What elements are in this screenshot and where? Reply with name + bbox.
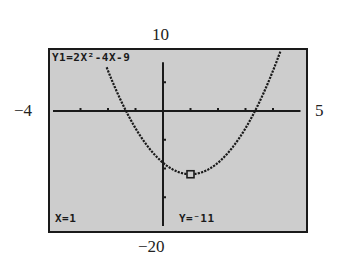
calculator-screen: Y1=2X²-4X-9 X=1 Y=⁻11 bbox=[48, 48, 308, 233]
parabola-curve bbox=[107, 51, 281, 174]
graph-canvas bbox=[48, 48, 308, 233]
equation-text: Y1=2X²-4X-9 bbox=[52, 52, 130, 63]
xmin-label: −4 bbox=[14, 102, 32, 119]
trace-y-readout: Y=⁻11 bbox=[179, 213, 215, 224]
ymax-label: 10 bbox=[152, 26, 169, 43]
trace-cursor-icon bbox=[187, 171, 194, 178]
ymin-label: −20 bbox=[138, 238, 165, 255]
trace-x-readout: X=1 bbox=[55, 213, 76, 224]
xmax-label: 5 bbox=[315, 102, 324, 119]
